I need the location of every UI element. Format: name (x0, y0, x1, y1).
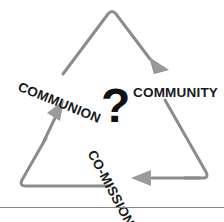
cycle-diagram: COMMUNION COMMUNITY CO-MISSION ? (0, 0, 224, 222)
triangle-edge-left-upper (63, 12, 150, 75)
node-label-community: COMMUNITY (133, 86, 218, 100)
triangle-edge-right (165, 100, 207, 178)
arrow-to-comission-head (131, 170, 151, 186)
center-question-mark: ? (101, 82, 130, 130)
triangle-edge-left-lower (44, 118, 55, 141)
footer-divider (0, 207, 224, 208)
